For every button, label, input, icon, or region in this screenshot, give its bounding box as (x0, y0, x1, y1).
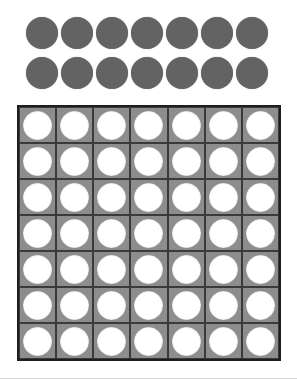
board-cell[interactable] (19, 107, 56, 143)
board-cell[interactable] (205, 143, 242, 179)
game-disc[interactable] (26, 57, 58, 89)
board-cell[interactable] (56, 215, 93, 251)
empty-slot (60, 183, 89, 212)
board-cell[interactable] (242, 215, 279, 251)
board-cell[interactable] (93, 107, 130, 143)
game-disc[interactable] (96, 17, 128, 49)
board-cell[interactable] (56, 107, 93, 143)
board-cell[interactable] (93, 143, 130, 179)
board-cell[interactable] (19, 323, 56, 359)
board-cell[interactable] (130, 215, 167, 251)
bottom-divider (0, 378, 297, 379)
board-cell[interactable] (93, 251, 130, 287)
game-disc[interactable] (61, 17, 93, 49)
empty-slot (23, 255, 52, 284)
board-cell[interactable] (242, 107, 279, 143)
game-disc[interactable] (166, 57, 198, 89)
game-disc[interactable] (201, 57, 233, 89)
board-cell[interactable] (130, 143, 167, 179)
empty-slot (60, 111, 89, 140)
board-cell[interactable] (205, 287, 242, 323)
board-cell[interactable] (19, 251, 56, 287)
board-cell[interactable] (242, 323, 279, 359)
board-cell[interactable] (93, 215, 130, 251)
board-cell[interactable] (205, 107, 242, 143)
empty-slot (97, 327, 126, 356)
empty-slot (134, 147, 163, 176)
empty-slot (209, 111, 238, 140)
board-cell[interactable] (205, 179, 242, 215)
board-cell[interactable] (56, 143, 93, 179)
empty-slot (209, 291, 238, 320)
board-cell[interactable] (168, 179, 205, 215)
empty-slot (172, 327, 201, 356)
empty-slot (134, 291, 163, 320)
board-cell[interactable] (19, 179, 56, 215)
board-cell[interactable] (205, 215, 242, 251)
empty-slot (23, 219, 52, 248)
empty-slot (246, 111, 275, 140)
empty-slot (209, 219, 238, 248)
empty-slot (97, 291, 126, 320)
empty-slot (134, 219, 163, 248)
board-cell[interactable] (168, 143, 205, 179)
game-disc[interactable] (131, 17, 163, 49)
board-cell[interactable] (130, 107, 167, 143)
empty-slot (60, 255, 89, 284)
empty-slot (172, 111, 201, 140)
board-cell[interactable] (56, 251, 93, 287)
game-disc[interactable] (26, 17, 58, 49)
board-cell[interactable] (93, 323, 130, 359)
game-disc[interactable] (61, 57, 93, 89)
empty-slot (134, 183, 163, 212)
board-cell[interactable] (168, 215, 205, 251)
board-cell[interactable] (19, 287, 56, 323)
board-cell[interactable] (205, 251, 242, 287)
board-cell[interactable] (130, 179, 167, 215)
game-disc[interactable] (131, 57, 163, 89)
game-disc[interactable] (201, 17, 233, 49)
empty-slot (23, 147, 52, 176)
empty-slot (23, 111, 52, 140)
board-cell[interactable] (93, 179, 130, 215)
empty-slot (209, 183, 238, 212)
game-disc[interactable] (236, 17, 268, 49)
board-cell[interactable] (242, 143, 279, 179)
empty-slot (97, 183, 126, 212)
game-disc[interactable] (166, 17, 198, 49)
game-disc[interactable] (96, 57, 128, 89)
empty-slot (246, 255, 275, 284)
board-cell[interactable] (56, 323, 93, 359)
board-cell[interactable] (205, 323, 242, 359)
board-cell[interactable] (130, 323, 167, 359)
board-cell[interactable] (242, 179, 279, 215)
board-cell[interactable] (19, 215, 56, 251)
empty-slot (172, 255, 201, 284)
board-cell[interactable] (130, 287, 167, 323)
board-cell[interactable] (242, 251, 279, 287)
disc-tray-row-2 (26, 57, 268, 89)
board-cell[interactable] (130, 251, 167, 287)
empty-slot (172, 291, 201, 320)
empty-slot (134, 111, 163, 140)
board-cell[interactable] (168, 107, 205, 143)
board-cell[interactable] (56, 287, 93, 323)
empty-slot (209, 147, 238, 176)
board-cell[interactable] (19, 143, 56, 179)
empty-slot (172, 183, 201, 212)
board-cell[interactable] (168, 251, 205, 287)
empty-slot (209, 255, 238, 284)
board-cell[interactable] (168, 287, 205, 323)
empty-slot (209, 327, 238, 356)
empty-slot (60, 219, 89, 248)
board-cell[interactable] (242, 287, 279, 323)
game-disc[interactable] (236, 57, 268, 89)
empty-slot (134, 255, 163, 284)
empty-slot (246, 219, 275, 248)
empty-slot (60, 147, 89, 176)
board-cell[interactable] (56, 179, 93, 215)
empty-slot (97, 111, 126, 140)
board-cell[interactable] (93, 287, 130, 323)
game-board (17, 105, 281, 361)
board-cell[interactable] (168, 323, 205, 359)
